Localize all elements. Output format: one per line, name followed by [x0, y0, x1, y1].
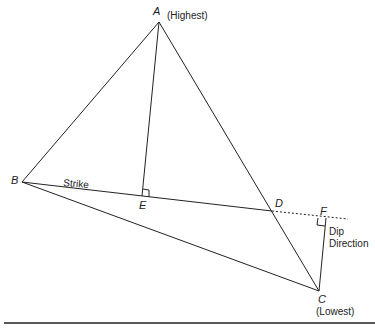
point-label-b: B	[11, 174, 18, 186]
strike-line	[22, 182, 272, 211]
point-note-c: (Lowest)	[316, 306, 354, 317]
point-label-f: F	[320, 205, 328, 217]
point-label-e: E	[139, 199, 147, 211]
edge-ab	[22, 22, 159, 182]
dip-direction-line	[319, 218, 326, 291]
line-ae	[142, 22, 159, 196]
edge-ac	[159, 22, 319, 291]
right-angle-marker-f	[317, 218, 325, 226]
point-label-c: C	[318, 293, 326, 305]
strike-extension-dashed	[272, 211, 348, 219]
strike-dip-diagram: A (Highest) B Strike E D F Dip Direction…	[0, 0, 375, 329]
point-label-d: D	[275, 197, 283, 209]
point-note-a: (Highest)	[167, 10, 208, 21]
dip-direction-label-line1: Dip	[329, 226, 344, 237]
dip-direction-label-line2: Direction	[329, 238, 368, 249]
strike-label: Strike	[63, 177, 90, 190]
point-label-a: A	[152, 5, 160, 17]
